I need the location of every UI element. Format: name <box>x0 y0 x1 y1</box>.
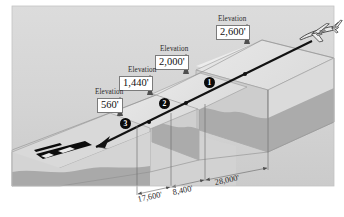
elevation-word-2000: Elevation <box>160 46 188 53</box>
elevation-value-560: 560' <box>97 98 123 113</box>
waypoint-dot-3 <box>147 120 151 124</box>
scene-illustration <box>0 0 344 217</box>
segment-badge-3: 3 <box>120 118 131 129</box>
elevation-value-1440: 1,440' <box>119 76 153 91</box>
elevation-word-2600: Elevation <box>218 16 246 23</box>
waypoint-dot-2 <box>184 101 188 105</box>
elevation-word-1440: Elevation <box>128 67 156 74</box>
elevation-word-560: Elevation <box>95 89 123 96</box>
elevation-value-2600: 2,600' <box>216 25 250 40</box>
descent-profile-figure: Elevation 2,600' Elevation 2,000' Elevat… <box>0 0 344 217</box>
elevation-value-2000: 2,000' <box>155 55 189 70</box>
waypoint-dot-1 <box>243 72 247 76</box>
segment-badge-1: 1 <box>204 77 215 88</box>
segment-badge-2: 2 <box>159 98 170 109</box>
